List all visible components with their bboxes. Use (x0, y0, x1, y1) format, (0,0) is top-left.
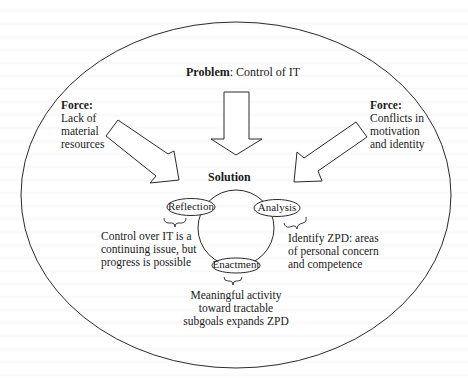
enactment-note-line: Meaningful activity (176, 289, 296, 302)
right-force-label: Force: (370, 99, 425, 112)
analysis-label: Analysis (254, 201, 300, 214)
reflection-note: Control over IT is a continuing issue, b… (101, 230, 197, 269)
enactment-label: Enactment (212, 258, 260, 271)
left-force-line: resources (61, 138, 104, 151)
analysis-brace-icon (284, 217, 306, 229)
left-force-line: Lack of (61, 112, 104, 125)
solution-title: Solution (208, 171, 251, 184)
reflection-note-line: continuing issue, but (101, 243, 197, 256)
enactment-brace-icon (224, 277, 242, 285)
analysis-note-line: and competence (288, 258, 379, 271)
enactment-note-line: subgoals expands ZPD (176, 315, 296, 328)
problem-label: Problem (186, 65, 230, 79)
enactment-note-line: toward tractable (176, 302, 296, 315)
analysis-note: Identify ZPD: areas of personal concern … (288, 232, 379, 271)
enactment-note: Meaningful activity toward tractable sub… (176, 289, 296, 328)
left-force-label: Force: (61, 99, 104, 112)
problem-title: Problem: Control of IT (186, 66, 300, 79)
left-force-arrow-icon (106, 120, 179, 183)
right-force-arrow-icon (294, 122, 367, 182)
left-force-block: Force: Lack of material resources (61, 99, 104, 151)
problem-down-arrow-icon (211, 92, 262, 155)
right-force-line: and identity (370, 138, 425, 151)
reflection-label: Reflection (167, 200, 215, 213)
reflection-note-line: progress is possible (101, 256, 197, 269)
problem-text: : Control of IT (230, 65, 300, 79)
reflection-note-line: Control over IT is a (101, 230, 197, 243)
right-force-block: Force: Conflicts in motivation and ident… (370, 99, 425, 151)
right-force-line: Conflicts in (370, 112, 425, 125)
analysis-note-line: Identify ZPD: areas (288, 232, 379, 245)
analysis-note-line: of personal concern (288, 245, 379, 258)
right-force-line: motivation (370, 125, 425, 138)
left-force-line: material (61, 125, 104, 138)
reflection-brace-icon (164, 218, 186, 227)
